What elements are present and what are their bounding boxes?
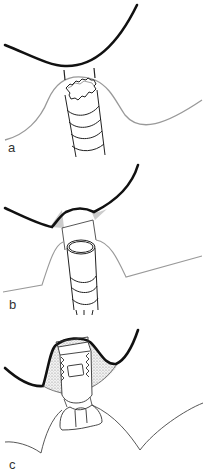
bone-contour (5, 403, 203, 453)
implant-body (67, 240, 98, 315)
crown-outline (5, 5, 137, 66)
implant-body (65, 90, 105, 157)
panel-a: a (0, 0, 214, 160)
panel-c: c (0, 315, 214, 475)
panel-label-a: a (8, 141, 15, 154)
panel-label-b: b (9, 298, 16, 311)
panel-c-drawing (0, 315, 214, 475)
panel-b: b (0, 160, 214, 315)
hex-connection (66, 78, 96, 100)
panel-label-c: c (9, 458, 16, 471)
crown-outline (5, 165, 138, 227)
gingiva-contour (3, 240, 202, 292)
implant-head (60, 405, 102, 430)
panel-a-drawing (0, 0, 214, 160)
panel-b-drawing (0, 160, 214, 315)
gingiva-contour (5, 77, 202, 140)
